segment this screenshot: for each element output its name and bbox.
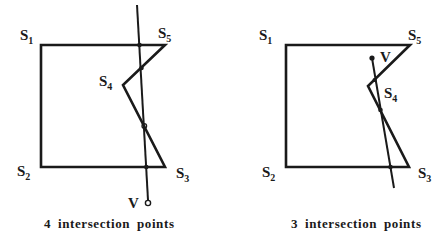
label-s3: S3 [176,165,189,184]
label-s1: S1 [259,27,272,46]
label-s4: S4 [384,85,397,104]
label-v: V [128,195,139,211]
intersection-point [139,66,144,71]
label-s5: S5 [158,25,171,44]
label-s1: S1 [20,27,33,46]
ray-origin-v [369,55,374,60]
caption-left: 4 intersection points [44,216,175,231]
intersection-point [388,165,393,170]
intersection-point [373,78,377,82]
label-v: V [380,49,391,65]
label-s5: S5 [408,27,421,46]
intersection-point [137,43,142,48]
figure-right: S1 V S5 S4 S2 S3 3 intersection points [259,27,431,231]
diagram-canvas: S1 S5 S4 S2 S3 V 4 intersection points S… [0,0,446,240]
label-s2: S2 [17,163,30,182]
intersection-point [144,165,149,170]
ray-left [137,5,148,200]
polygon-right [286,45,410,167]
label-s4: S4 [99,73,112,92]
label-s2: S2 [262,164,275,183]
label-s3: S3 [418,165,431,184]
polygon-left [41,45,165,167]
caption-right: 3 intersection points [291,216,422,231]
intersection-point [378,108,383,113]
ray-origin-v [145,200,150,205]
figure-left: S1 S5 S4 S2 S3 V 4 intersection points [17,5,189,231]
